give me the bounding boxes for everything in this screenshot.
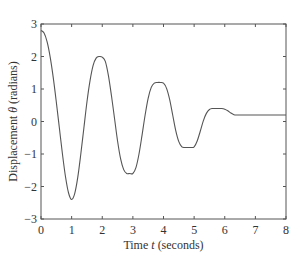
x-tick-label: 6 xyxy=(222,223,228,237)
y-tick-label: −3 xyxy=(24,212,37,226)
chart: 012345678 −3−2−10123 Time t (seconds) Di… xyxy=(0,0,303,262)
x-tick-label: 8 xyxy=(283,223,289,237)
y-tick-label: 0 xyxy=(31,115,37,129)
x-tick-label: 1 xyxy=(69,223,75,237)
displacement-line xyxy=(41,31,286,200)
y-tick-label: −2 xyxy=(24,180,37,194)
y-tick-labels: −3−2−10123 xyxy=(24,17,37,226)
y-tick-label: 1 xyxy=(31,82,37,96)
y-axis-label: Displacement θ (radians) xyxy=(6,61,20,182)
y-tick-label: −1 xyxy=(24,147,37,161)
x-tick-label: 2 xyxy=(99,223,105,237)
y-tick-label: 2 xyxy=(31,50,37,64)
axis-ticks xyxy=(41,24,286,219)
x-tick-label: 5 xyxy=(191,223,197,237)
plot-area xyxy=(41,24,286,219)
x-tick-label: 7 xyxy=(252,223,258,237)
y-tick-label: 3 xyxy=(31,17,37,31)
x-tick-label: 4 xyxy=(161,223,167,237)
x-tick-labels: 012345678 xyxy=(38,223,289,237)
x-axis-label: Time t (seconds) xyxy=(123,238,203,252)
x-tick-label: 0 xyxy=(38,223,44,237)
x-tick-label: 3 xyxy=(130,223,136,237)
